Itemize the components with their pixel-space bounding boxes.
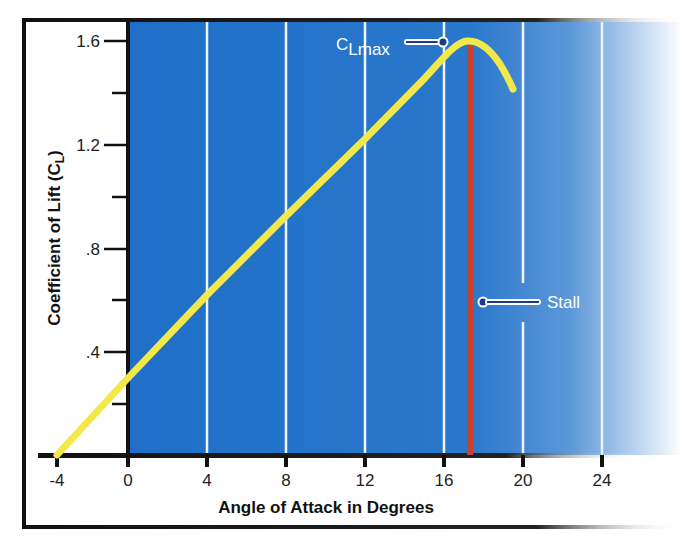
y-axis-title: Coefficient of Lift (CL) — [45, 150, 67, 325]
plot-area — [128, 22, 682, 455]
y-axis-title-subscript: L — [53, 156, 67, 163]
y-tick-label: .4 — [86, 343, 100, 362]
x-axis-title: Angle of Attack in Degrees — [218, 498, 434, 517]
x-tick-label: 8 — [281, 471, 290, 490]
y-tick-label: 1.2 — [76, 136, 100, 155]
x-tick-label: 16 — [435, 471, 454, 490]
y-tick-label: 1.6 — [76, 32, 100, 51]
stall-label: Stall — [547, 293, 580, 312]
x-tick-label: 12 — [356, 471, 375, 490]
x-tick-label: 20 — [514, 471, 533, 490]
y-tick-labels: 1.6 1.2 .8 .4 — [76, 32, 100, 362]
lift-coefficient-chart: 1.6 1.2 .8 .4 -4 0 4 8 12 16 20 24 Angle… — [0, 0, 682, 550]
clmax-label-subscript: Lmax — [348, 40, 390, 59]
y-axis-title-main: Coefficient of Lift (C — [45, 163, 64, 325]
y-axis-title-suffix: ) — [45, 150, 64, 156]
y-tick-label: .8 — [86, 240, 100, 259]
x-tick-label: 24 — [593, 471, 612, 490]
clmax-label-c: C — [336, 35, 348, 54]
x-tick-label: -4 — [49, 471, 64, 490]
cropped-caption-text — [40, 536, 680, 550]
x-tick-labels: -4 0 4 8 12 16 20 24 — [49, 471, 611, 490]
x-tick-label: 4 — [202, 471, 211, 490]
x-tick-label: 0 — [123, 471, 132, 490]
